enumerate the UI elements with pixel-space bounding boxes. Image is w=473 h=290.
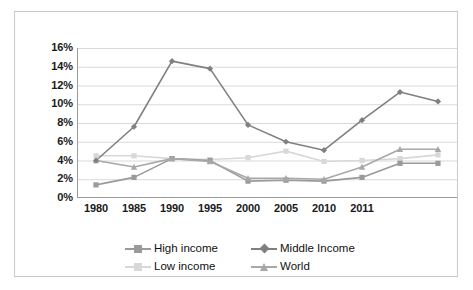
line-chart-svg [77, 48, 457, 198]
legend-label: High income [154, 242, 218, 255]
marker-low-income [359, 158, 364, 163]
legend-swatch-diamond-icon [251, 243, 277, 255]
series-line-high-income [96, 159, 438, 185]
series-line-middle-income [96, 61, 438, 160]
y-axis-tick-labels: 0%2%4%6%8%10%12%14%16% [29, 48, 73, 198]
chart-frame: 0%2%4%6%8%10%12%14%16% 19801985199019952… [14, 11, 458, 277]
y-tick-label: 8% [33, 117, 73, 128]
figure: 0%2%4%6%8%10%12%14%16% 19801985199019952… [0, 0, 473, 290]
legend-swatch-square-icon [125, 243, 151, 255]
legend-row: Low income World [125, 258, 375, 275]
y-tick-label: 4% [33, 155, 73, 166]
y-tick-label: 2% [33, 173, 73, 184]
y-tick-label: 16% [33, 42, 73, 53]
legend-entry-low-income: Low income [125, 258, 251, 275]
y-tick-label: 10% [33, 98, 73, 109]
marker-high-income [397, 161, 402, 166]
legend-entry-world: World [251, 258, 375, 275]
y-tick-label: 14% [33, 61, 73, 72]
marker-low-income [321, 159, 326, 164]
marker-middle-income [283, 139, 289, 145]
marker-high-income [93, 182, 98, 187]
chart-legend: High income Middle Income Low income [125, 240, 375, 280]
x-tick-label: 2011 [337, 202, 387, 214]
legend-swatch-square-icon [125, 261, 151, 273]
legend-label: World [280, 260, 310, 273]
marker-low-income [131, 153, 136, 158]
marker-low-income [245, 155, 250, 160]
marker-high-income [435, 161, 440, 166]
legend-label: Low income [154, 260, 215, 273]
y-tick-label: 0% [33, 192, 73, 203]
x-axis-tick-labels: 19801985199019952000200520102011 [77, 202, 457, 220]
y-tick-label: 12% [33, 80, 73, 91]
legend-entry-middle-income: Middle Income [251, 240, 375, 257]
legend-swatch-triangle-icon [251, 261, 277, 273]
marker-low-income [435, 152, 440, 157]
plot-area [77, 48, 457, 198]
marker-middle-income [435, 98, 441, 104]
marker-low-income [397, 156, 402, 161]
legend-entry-high-income: High income [125, 240, 251, 257]
legend-label: Middle Income [280, 242, 355, 255]
legend-row: High income Middle Income [125, 240, 375, 257]
marker-high-income [359, 175, 364, 180]
y-tick-label: 6% [33, 136, 73, 147]
marker-low-income [283, 149, 288, 154]
marker-high-income [131, 175, 136, 180]
